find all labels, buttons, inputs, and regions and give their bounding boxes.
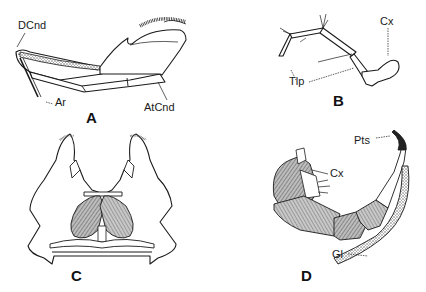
panel-c-drawing (28, 134, 176, 264)
panel-d-drawing (273, 130, 409, 264)
anatomy-figure: DCnd Ar AtCnd A Cx Tlp B C Pts Cx Gl D (0, 0, 426, 292)
panel-label-a: A (86, 110, 97, 125)
label-gl: Gl (332, 249, 343, 260)
label-pts: Pts (354, 135, 370, 146)
label-ar: Ar (55, 97, 66, 108)
label-dcnd: DCnd (18, 20, 46, 31)
panel-label-d: D (301, 268, 312, 283)
figure-drawings (0, 0, 426, 292)
label-atcnd: AtCnd (144, 102, 175, 113)
label-cx-b: Cx (380, 16, 393, 27)
label-tlp: Tlp (289, 76, 304, 87)
panel-label-c: C (71, 268, 82, 283)
panel-a-drawing (16, 19, 186, 104)
panel-label-b: B (333, 93, 344, 108)
label-cx-d: Cx (330, 168, 343, 179)
